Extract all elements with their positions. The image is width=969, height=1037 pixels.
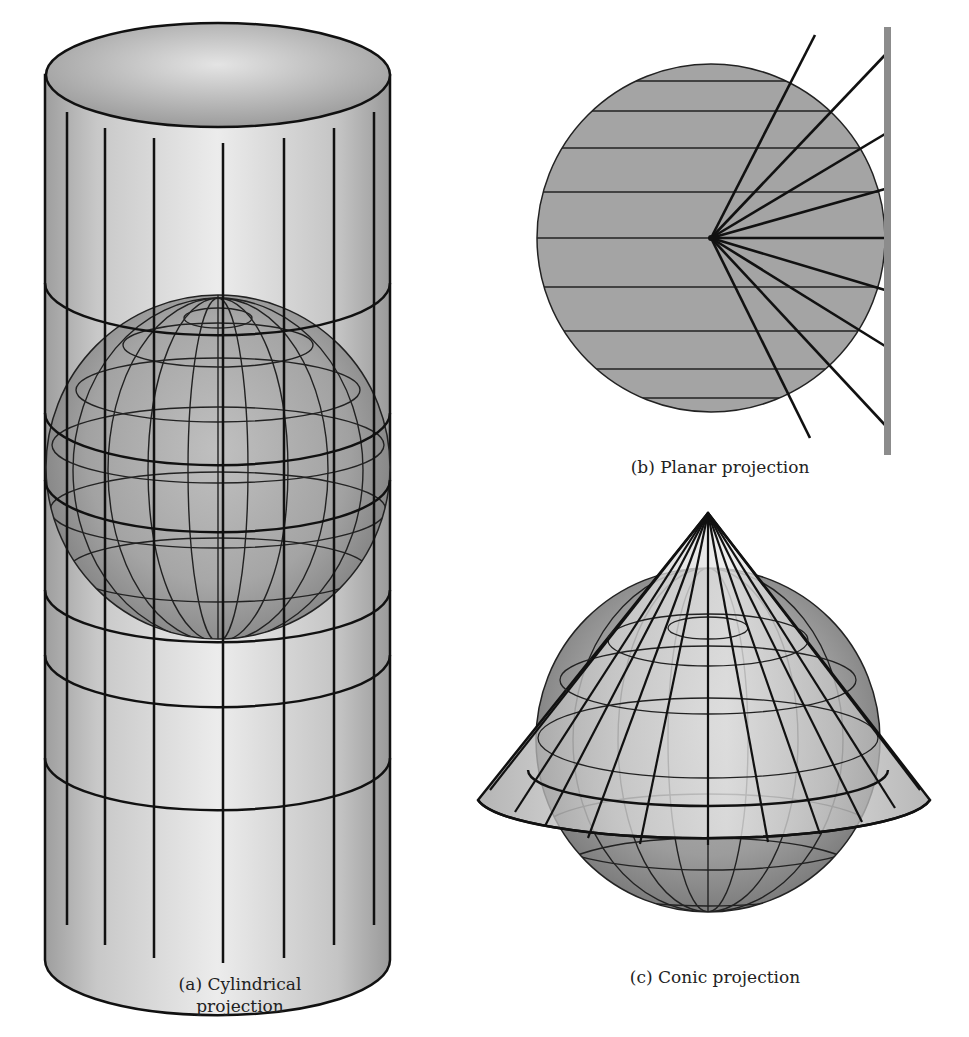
caption-cylindrical-line1: (a) Cylindrical: [140, 973, 340, 995]
caption-cylindrical: (a) Cylindrical projection: [140, 973, 340, 1017]
map-projections-figure: (a) Cylindrical projection (b) Planar pr…: [0, 0, 969, 1037]
caption-cylindrical-line2: projection: [140, 995, 340, 1017]
cylinder-top-opening: [46, 23, 390, 127]
cylindrical-projection-diagram: [45, 23, 390, 1015]
globe-a: [46, 295, 390, 642]
conic-projection-diagram: [478, 513, 930, 912]
caption-conic: (c) Conic projection: [590, 966, 840, 988]
caption-planar: (b) Planar projection: [600, 456, 840, 478]
planar-projection-diagram: [530, 27, 891, 455]
projection-plane: [884, 27, 891, 455]
